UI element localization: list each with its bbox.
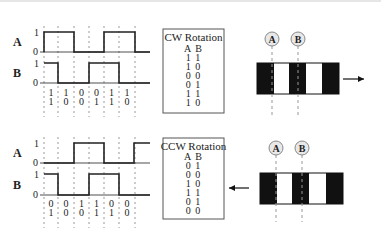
opaque-bar <box>322 63 339 94</box>
quadrature-encoder-diagram: A B 1 0 1 0 111000011110 CW Rotation A B… <box>0 0 381 237</box>
cw-bit-b: 0 <box>64 96 69 107</box>
ccw-a-low-label: 0 <box>33 157 38 168</box>
cw-sensor-label: A <box>268 34 276 45</box>
opaque-bar <box>326 173 343 204</box>
cw-b-low-label: 0 <box>33 77 38 88</box>
ccw-encoder-strip: AB <box>229 141 343 222</box>
cw-rotation-table: CW Rotation A B 1 11 00 00 11 11 0 <box>163 29 224 113</box>
cw-b-high-label: 1 <box>34 58 39 69</box>
ccw-arrowhead-icon <box>229 185 235 191</box>
ccw-rotation-table: CCW Rotation A B 0 10 01 01 10 10 0 <box>161 138 227 219</box>
ccw-bit-b: 1 <box>109 207 114 218</box>
ccw-table-row: 0 0 <box>186 205 202 216</box>
opaque-bar <box>260 173 277 204</box>
ccw-waveform-a <box>44 143 150 163</box>
cw-table-row: 1 0 <box>186 97 202 108</box>
ccw-bit-b: 0 <box>125 207 130 218</box>
ccw-a-high-label: 1 <box>34 138 39 149</box>
ccw-bit-b: 0 <box>79 207 84 218</box>
transparent-slot <box>309 173 326 204</box>
cw-sensor-label: B <box>295 34 302 45</box>
cw-channel-a-label: A <box>13 35 22 49</box>
transparent-slot <box>274 63 289 94</box>
cw-a-low-label: 0 <box>33 46 38 57</box>
opaque-bar <box>257 63 274 94</box>
opaque-bar <box>292 173 309 204</box>
cw-table-title: CW Rotation <box>164 31 223 43</box>
cw-diagram: A B 1 0 1 0 111000011110 CW Rotation A B… <box>13 26 364 117</box>
cw-bit-b: 1 <box>49 96 54 107</box>
transparent-slot <box>306 63 322 94</box>
ccw-bit-b: 1 <box>94 207 99 218</box>
cw-bit-b: 1 <box>109 96 114 107</box>
ccw-diagram: A B 1 0 1 0 010010110100 CCW Rotation A … <box>13 137 343 228</box>
ccw-b-high-label: 1 <box>34 169 39 180</box>
cw-a-high-label: 1 <box>34 27 39 38</box>
ccw-channel-a-label: A <box>13 146 22 160</box>
cw-encoder-strip: AB <box>257 32 364 115</box>
cw-bit-b: 0 <box>125 96 130 107</box>
cw-waveform-a <box>44 32 150 52</box>
cw-arrowhead-icon <box>358 76 364 82</box>
cw-bit-b: 1 <box>94 96 99 107</box>
cw-channel-b-label: B <box>13 66 21 80</box>
ccw-bit-b: 0 <box>64 207 69 218</box>
ccw-sensor-label: B <box>299 143 306 154</box>
ccw-sensor-label: A <box>272 143 280 154</box>
cw-bit-b: 0 <box>79 96 84 107</box>
ccw-b-low-label: 0 <box>33 189 38 200</box>
ccw-waveform-b <box>44 174 150 195</box>
transparent-slot <box>277 173 292 204</box>
cw-waveform-b <box>44 63 150 83</box>
ccw-channel-b-label: B <box>13 178 21 192</box>
ccw-bit-b: 1 <box>49 207 54 218</box>
